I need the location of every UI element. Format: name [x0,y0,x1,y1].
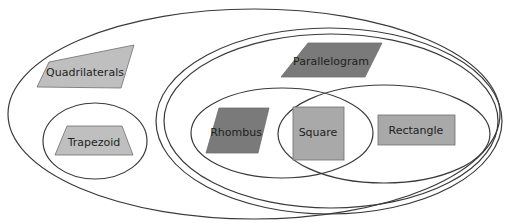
quadrilaterals-label: Quadrilaterals [46,66,124,79]
rectangle-label: Rectangle [389,124,444,137]
quadrilaterals-node: Quadrilaterals [37,45,134,88]
trapezoid-node: Trapezoid [55,126,133,155]
trapezoid-label: Trapezoid [67,136,121,149]
rhombus-label: Rhombus [210,126,262,139]
rectangle-node: Rectangle [378,115,455,145]
rhombus-node: Rhombus [206,108,269,153]
quadrilateral-hierarchy-diagram: Quadrilaterals Trapezoid Parallelogram R… [0,0,509,224]
square-node: Square [293,107,344,160]
square-label: Square [299,126,338,139]
parallelogram-label: Parallelogram [293,55,369,68]
parallelogram-node: Parallelogram [281,43,382,77]
